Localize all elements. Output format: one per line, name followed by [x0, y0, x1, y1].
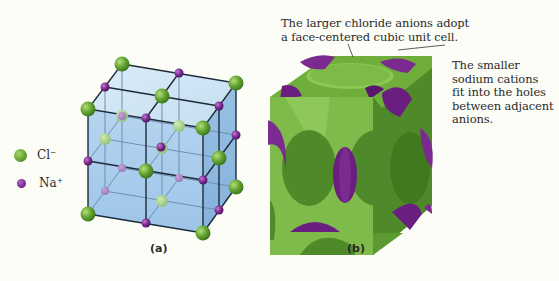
annotation-sodium-line-4: between adjacent: [452, 100, 554, 114]
annotation-chloride-line-1: The larger chloride anions adopt: [281, 17, 469, 31]
annotation-sodium-line-3: fit into the holes: [452, 86, 554, 100]
space-filling-cube-b: [268, 55, 435, 255]
lattice-diagram-a: [0, 0, 559, 281]
panel-label-b: (b): [347, 242, 365, 255]
leader-line-sodium: [398, 45, 445, 50]
annotation-sodium-line-2: sodium cations: [452, 73, 554, 87]
annotation-sodium-line-1: The smaller: [452, 59, 554, 73]
annotation-sodium: The smaller sodium cations fit into the …: [452, 59, 554, 127]
annotation-chloride: The larger chloride anions adopt a face-…: [281, 17, 469, 44]
annotation-sodium-line-5: anions.: [452, 113, 554, 127]
panel-label-a: (a): [150, 242, 167, 255]
annotation-chloride-line-2: a face-centered cubic unit cell.: [281, 31, 469, 45]
